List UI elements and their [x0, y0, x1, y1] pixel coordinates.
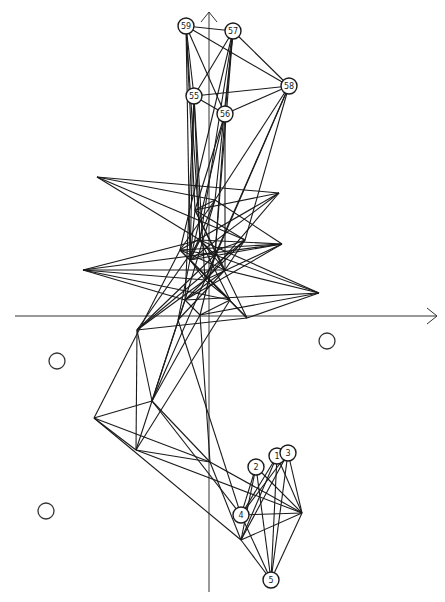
node-55: 55	[186, 88, 202, 104]
node-label: 3	[285, 449, 290, 458]
edge	[152, 401, 210, 462]
edge	[136, 450, 210, 462]
node-label: 5	[268, 576, 273, 585]
edge	[247, 293, 319, 318]
node-label: 55	[189, 92, 199, 101]
edges	[83, 26, 319, 580]
edge	[83, 244, 282, 270]
network-diagram: 595758555613245	[0, 0, 445, 602]
edge	[241, 513, 302, 515]
node-56: 56	[217, 106, 233, 122]
node-label: 2	[253, 463, 258, 472]
node-label: 59	[181, 22, 191, 31]
node-label: 4	[238, 511, 243, 520]
edge	[225, 270, 319, 293]
edge	[94, 401, 152, 418]
node-4: 4	[233, 507, 249, 523]
edge	[241, 467, 256, 540]
edge	[245, 86, 289, 240]
edge	[136, 330, 137, 450]
empty-marker	[49, 353, 65, 369]
edge	[152, 401, 241, 515]
node-label: 58	[284, 82, 294, 91]
edge	[94, 418, 241, 540]
node-label: 56	[220, 110, 230, 119]
empty-marker	[319, 333, 335, 349]
edge	[97, 177, 245, 240]
node-58: 58	[281, 78, 297, 94]
node-59: 59	[178, 18, 194, 34]
edge	[194, 86, 289, 96]
node-5: 5	[263, 572, 279, 588]
empty-circles	[38, 333, 335, 519]
edge	[97, 177, 279, 193]
edge	[137, 330, 152, 401]
edge	[136, 300, 230, 450]
edge	[288, 453, 302, 513]
node-label: 1	[274, 452, 279, 461]
node-label: 57	[228, 27, 238, 36]
node-2: 2	[248, 459, 264, 475]
node-3: 3	[280, 445, 296, 461]
edge	[97, 177, 200, 240]
edge	[195, 114, 225, 210]
empty-marker	[38, 503, 54, 519]
edge	[137, 318, 247, 330]
node-57: 57	[225, 23, 241, 39]
